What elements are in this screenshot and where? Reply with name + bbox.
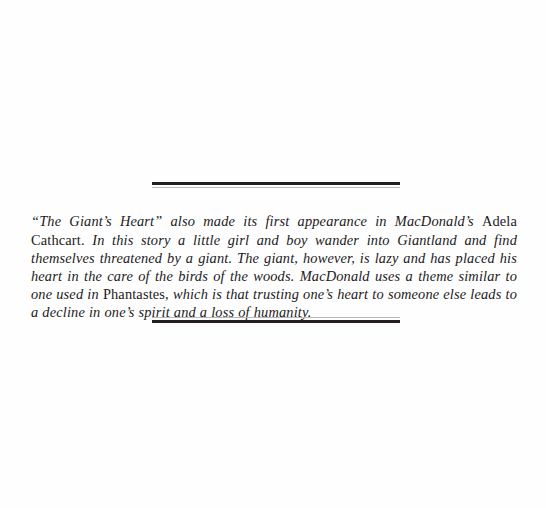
ornament-thin-rule: [152, 187, 400, 188]
book-title-phantastes: Phantastes,: [103, 286, 169, 302]
ornament-thick-rule: [152, 320, 400, 323]
excerpt-paragraph: “The Giant’s Heart” also made its first …: [31, 212, 517, 321]
excerpt-segment-1: “The Giant’s Heart” also made its first …: [31, 213, 482, 229]
scanned-page: “The Giant’s Heart” also made its first …: [0, 0, 546, 508]
double-rule-ornament-top: [152, 181, 400, 190]
double-rule-ornament-bottom: [152, 316, 400, 325]
ornament-thick-rule: [152, 182, 400, 185]
ornament-thin-rule: [152, 317, 400, 318]
